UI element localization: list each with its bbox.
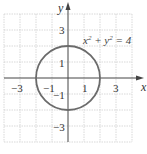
x-tick-neg3: −3 bbox=[11, 82, 23, 94]
x-tick-1: 1 bbox=[82, 82, 88, 94]
circle-graph: x y −3 −1 1 3 3 1 −1 −3 x2 + y2 = 4 bbox=[0, 0, 147, 154]
equation-label: x2 + y2 = 4 bbox=[82, 34, 132, 46]
y-arrow-icon bbox=[66, 2, 71, 10]
x-axis bbox=[4, 76, 144, 81]
y-axis-label: y bbox=[57, 1, 64, 15]
y-tick-neg3: −3 bbox=[53, 121, 65, 133]
y-tick-neg1: −1 bbox=[53, 89, 65, 101]
y-tick-1: 1 bbox=[59, 57, 65, 69]
y-tick-3: 3 bbox=[59, 24, 65, 36]
x-axis-label: x bbox=[140, 80, 147, 94]
y-axis bbox=[66, 2, 71, 142]
x-tick-3: 3 bbox=[113, 82, 119, 94]
